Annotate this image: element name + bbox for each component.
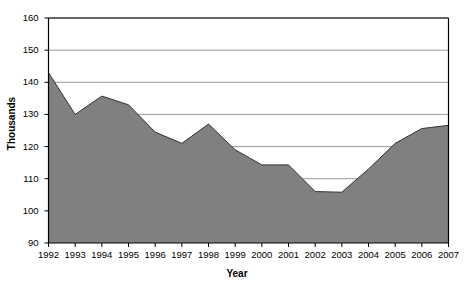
- x-tick-label: 2003: [327, 250, 357, 260]
- x-tick-label: 2007: [434, 250, 464, 260]
- x-tick-label: 2001: [274, 250, 304, 260]
- chart-plot-area: [0, 0, 474, 289]
- y-tick-label: 130: [11, 109, 39, 119]
- x-tick-label: 1996: [140, 250, 170, 260]
- x-tick-label: 1993: [60, 250, 90, 260]
- x-tick-label: 2006: [407, 250, 437, 260]
- x-tick-label: 1997: [167, 250, 197, 260]
- y-tick-label: 150: [11, 45, 39, 55]
- x-tick-label: 1999: [220, 250, 250, 260]
- chart-container: Thousands 90100110120130140150160 199219…: [0, 0, 474, 289]
- x-tick-label: 1995: [114, 250, 144, 260]
- x-tick-label: 2005: [380, 250, 410, 260]
- x-tick-label: 2000: [247, 250, 277, 260]
- x-tick-label: 2002: [300, 250, 330, 260]
- y-tick-label: 100: [11, 206, 39, 216]
- x-tick-label: 2004: [354, 250, 384, 260]
- y-tick-label: 110: [11, 174, 39, 184]
- y-tick-label: 140: [11, 77, 39, 87]
- x-tick-label: 1992: [34, 250, 64, 260]
- x-tick-label: 1998: [194, 250, 224, 260]
- y-tick-label: 120: [11, 142, 39, 152]
- x-tick-label: 1994: [87, 250, 117, 260]
- y-tick-label: 90: [11, 238, 39, 248]
- y-tick-label: 160: [11, 13, 39, 23]
- x-axis-title: Year: [0, 268, 474, 279]
